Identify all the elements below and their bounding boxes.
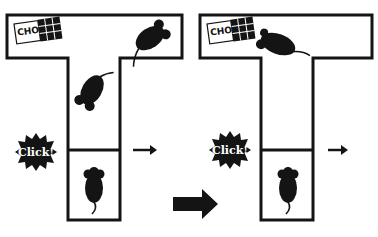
arrow-right-icon xyxy=(173,189,218,219)
chocolate-bar-icon: CHOC xyxy=(207,17,256,45)
small-arrow-right-icon xyxy=(133,145,157,155)
click-sound-burst-icon: Click! xyxy=(209,131,251,169)
panel-after: CHOC Click! xyxy=(200,15,372,220)
mouse-start-box-icon xyxy=(84,167,105,214)
t-maze-illustration: CHOC xyxy=(0,0,378,237)
small-arrow-right-icon xyxy=(328,145,348,155)
mouse-eating-chocolate-icon xyxy=(255,27,314,66)
mouse-stem-walking-icon xyxy=(72,62,114,113)
click-sound-burst-icon: Click! xyxy=(15,133,57,171)
chocolate-bar-icon: CHOC xyxy=(14,17,63,45)
svg-text:Click!: Click! xyxy=(212,144,248,157)
mouse-start-box-icon xyxy=(278,167,299,214)
svg-text:Click!: Click! xyxy=(18,146,54,159)
panel-before: CHOC xyxy=(7,15,182,220)
